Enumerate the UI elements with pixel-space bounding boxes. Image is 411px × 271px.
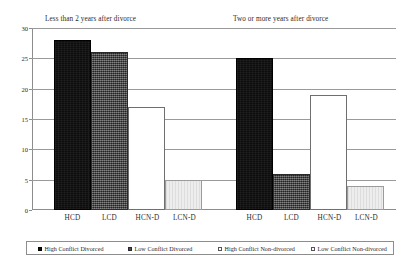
chart-legend: High Conflict Divorced Low Conflict Divo…: [26, 241, 394, 255]
bar-left-lcd: [91, 52, 128, 210]
bar-left-lcnd: [165, 180, 202, 210]
y-tick-label-0: 0: [25, 207, 28, 214]
legend-label-hcnd: High Conflict Non-divorced: [225, 246, 295, 252]
gridline-30: [32, 28, 396, 29]
y-tick-label-5: 5: [25, 176, 28, 183]
y-tick-label-20: 20: [21, 85, 28, 92]
x-tick-label-right-lcnd: LCN-D: [355, 214, 378, 222]
bar-right-lcnd: [347, 186, 384, 210]
legend-item-high-conflict-non-divorced: High Conflict Non-divorced: [218, 244, 295, 254]
y-tick-label-15: 15: [21, 116, 28, 123]
legend-item-high-conflict-divorced: High Conflict Divorced: [38, 244, 103, 254]
x-tick-label-left-hcd: HCD: [65, 214, 81, 222]
bar-left-hcd: [54, 40, 91, 210]
panel-title-left: Less than 2 years after divorce: [45, 15, 136, 23]
x-tick-label-right-hcnd: HCN-D: [318, 214, 342, 222]
y-axis: 30 25 20 15 10 5 0: [0, 28, 28, 210]
legend-item-low-conflict-divorced: Low Conflict Divorced: [128, 244, 192, 254]
x-tick-label-right-hcd: HCD: [247, 214, 263, 222]
x-tick-label-left-hcnd: HCN-D: [136, 214, 160, 222]
bar-right-hcnd: [310, 95, 347, 210]
x-tick-label-left-lcd: LCD: [102, 214, 117, 222]
legend-swatch-icon-hcd: [38, 247, 42, 251]
x-tick-label-left-lcnd: LCN-D: [173, 214, 196, 222]
x-tick-label-right-lcd: LCD: [284, 214, 299, 222]
bar-right-lcd: [273, 174, 310, 210]
x-axis: HCD LCD HCN-D LCN-D HCD LCD HCN-D LCN-D: [32, 214, 396, 228]
y-tick-label-25: 25: [21, 55, 28, 62]
legend-item-low-conflict-non-divorced: Low Conflict Non-divorced: [311, 244, 387, 254]
bar-right-hcd: [236, 58, 273, 210]
y-tick-label-10: 10: [21, 146, 28, 153]
legend-label-lcd: Low Conflict Divorced: [135, 246, 193, 252]
bar-chart: Less than 2 years after divorce Two or m…: [0, 0, 411, 271]
panel-title-right: Two or more years after divorce: [233, 15, 328, 23]
legend-swatch-icon-lcd: [128, 247, 132, 251]
legend-label-hcd: High Conflict Divorced: [45, 246, 104, 252]
y-tick-label-30: 30: [21, 25, 28, 32]
bar-left-hcnd: [128, 107, 165, 210]
y-tick-mark-0: [29, 210, 32, 211]
legend-swatch-icon-hcnd: [218, 247, 222, 251]
legend-label-lcnd: Low Conflict Non-divorced: [318, 246, 387, 252]
legend-swatch-icon-lcnd: [311, 247, 315, 251]
plot-area: [32, 28, 396, 210]
